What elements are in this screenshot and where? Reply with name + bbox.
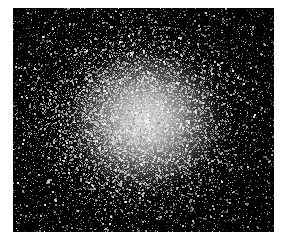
star-cluster-photo	[13, 8, 274, 232]
star-field	[13, 8, 274, 232]
